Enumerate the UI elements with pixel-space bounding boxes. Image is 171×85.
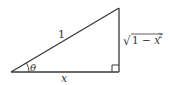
right-triangle-diagram: 1 x θ √ 1 − x 2 <box>0 0 171 85</box>
base-label: x <box>61 72 68 85</box>
hypotenuse-line <box>11 8 119 72</box>
angle-label: θ <box>30 62 36 73</box>
angle-arc <box>27 63 30 72</box>
right-angle-marker <box>112 65 119 72</box>
vertical-side-label: √ 1 − x 2 <box>123 32 163 48</box>
radical-expression: 1 − x <box>132 34 160 46</box>
hypotenuse-label: 1 <box>58 28 65 41</box>
radical-sign: √ <box>123 34 131 48</box>
exponent: 2 <box>158 32 162 40</box>
